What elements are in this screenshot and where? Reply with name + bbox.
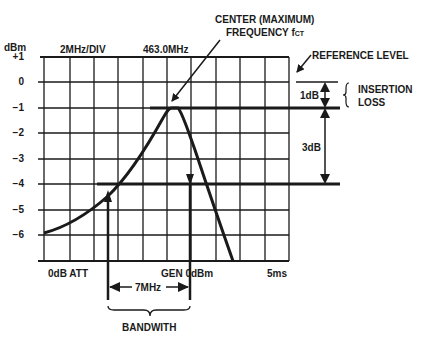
center-title-line2: FREQUENCY fCT bbox=[226, 27, 304, 39]
y-tick: −2 bbox=[2, 128, 24, 138]
y-tick: −1 bbox=[2, 103, 24, 113]
grid bbox=[38, 57, 289, 261]
insertion-loss-brace bbox=[343, 83, 349, 107]
one-db-label: 1dB bbox=[300, 90, 319, 101]
span-label: 2MHz/DIV bbox=[60, 44, 106, 55]
attenuation-label: 0dB ATT bbox=[48, 268, 88, 279]
center-freq-label: 463.0MHz bbox=[143, 44, 189, 55]
y-tick: 0 bbox=[2, 77, 24, 87]
three-db-label: 3dB bbox=[302, 142, 321, 153]
insertion-loss-label-2: LOSS bbox=[358, 97, 385, 108]
y-tick: −3 bbox=[2, 154, 24, 164]
sweep-time-label: 5ms bbox=[267, 268, 287, 279]
reference-level-label: REFERENCE LEVEL bbox=[312, 50, 409, 61]
generator-label: GEN 0dBm bbox=[161, 268, 213, 279]
y-tick: −4 bbox=[2, 179, 24, 189]
bandwidth-brace bbox=[108, 306, 190, 316]
y-tick: −5 bbox=[2, 205, 24, 215]
bandwidth-value: 7MHz bbox=[134, 282, 162, 293]
bandwidth-label: BANDWITH bbox=[122, 322, 176, 333]
reference-arrow bbox=[297, 55, 311, 72]
center-title-line1: CENTER (MAXIMUM) bbox=[215, 14, 314, 25]
y-tick: −6 bbox=[2, 230, 24, 240]
y-tick: +1 bbox=[2, 52, 24, 62]
insertion-loss-label-1: INSERTION bbox=[358, 84, 412, 95]
